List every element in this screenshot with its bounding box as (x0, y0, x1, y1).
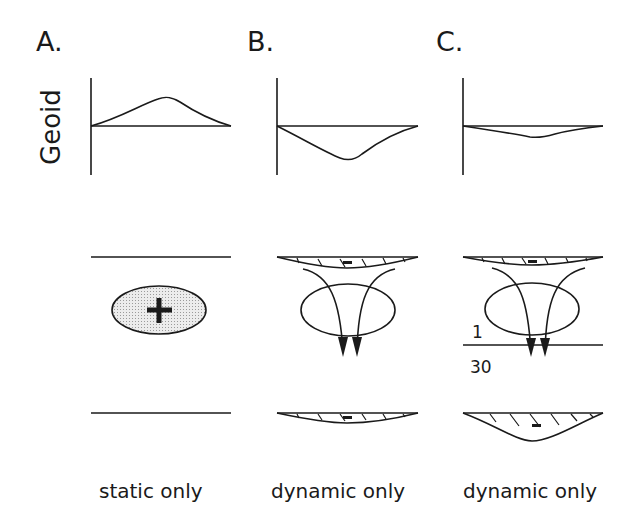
minus-sign-icon (343, 261, 352, 264)
upper-viscosity-label: 1 (472, 322, 483, 342)
geoid-plot-a (91, 78, 231, 175)
arrowhead-icons (338, 337, 550, 357)
caption-c: dynamic only (463, 479, 597, 503)
flow-arrow-b-right (357, 269, 395, 352)
minus-sign-icon (532, 424, 541, 427)
geoid-plot-b (277, 78, 418, 175)
flow-arrow-b-left (303, 269, 343, 352)
anomaly-c (485, 283, 579, 335)
caption-b: dynamic only (271, 479, 405, 503)
anomaly-b (301, 284, 395, 336)
flow-arrow-c-left (492, 268, 531, 353)
geoid-plot-c (463, 78, 603, 175)
caption-a: static only (99, 479, 203, 503)
minus-sign-icon (343, 416, 352, 419)
diagram-graphics (0, 0, 643, 521)
lower-viscosity-label: 30 (470, 357, 492, 377)
minus-sign-icon (528, 260, 537, 263)
